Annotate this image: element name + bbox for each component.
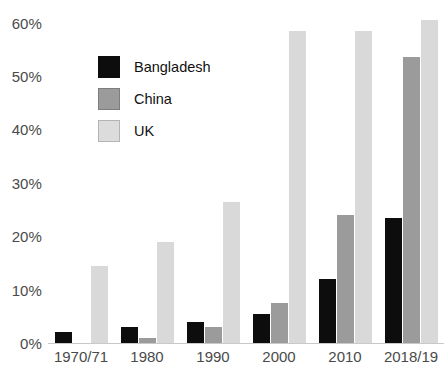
bar-group [378, 12, 444, 343]
legend-item: Bangladesh [98, 52, 228, 81]
x-axis-tick-label: 2018/19 [384, 348, 438, 365]
y-axis-tick-label: 20% [12, 228, 42, 245]
bar-group [246, 12, 312, 343]
y-axis-tick-label: 50% [12, 68, 42, 85]
bar [121, 327, 138, 343]
bar [289, 31, 306, 343]
x-axis-tick-label: 1980 [130, 348, 163, 365]
bar [271, 303, 288, 343]
legend-swatch-icon [98, 120, 120, 142]
bar [55, 332, 72, 343]
legend-item: UK [98, 116, 228, 145]
legend-item-label: UK [134, 123, 154, 139]
bar [157, 242, 174, 343]
bar [337, 215, 354, 343]
x-axis-tick-label: 1970/71 [54, 348, 108, 365]
bar [355, 31, 372, 343]
legend-item-label: China [134, 91, 172, 107]
y-axis: 0%10%20%30%40%50%60% [0, 0, 46, 377]
x-axis: 1970/7119801990200020102018/19 [48, 348, 444, 376]
bar-group [312, 12, 378, 343]
bar [385, 218, 402, 343]
x-axis-tick-label: 1990 [196, 348, 229, 365]
bar [253, 314, 270, 343]
bar [421, 20, 438, 343]
bar [319, 279, 336, 343]
x-axis-tick-label: 2010 [328, 348, 361, 365]
bar [403, 57, 420, 343]
y-axis-tick-label: 10% [12, 281, 42, 298]
y-axis-tick-label: 60% [12, 14, 42, 31]
legend-item-label: Bangladesh [134, 59, 211, 75]
chart-legend: BangladeshChinaUK [98, 52, 228, 148]
y-axis-tick-label: 30% [12, 174, 42, 191]
legend-swatch-icon [98, 88, 120, 110]
bar [187, 322, 204, 343]
x-axis-baseline [48, 343, 444, 344]
bar [205, 327, 222, 343]
legend-item: China [98, 84, 228, 113]
y-axis-tick-label: 40% [12, 121, 42, 138]
bar [91, 266, 108, 343]
bar [223, 202, 240, 343]
legend-swatch-icon [98, 56, 120, 78]
x-axis-tick-label: 2000 [262, 348, 295, 365]
y-axis-tick-label: 0% [20, 335, 42, 352]
bar-chart: 0%10%20%30%40%50%60% 1970/71198019902000… [0, 0, 448, 377]
